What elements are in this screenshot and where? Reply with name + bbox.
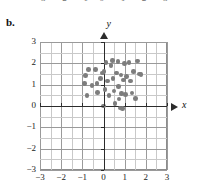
clipped-tick-label: 3	[163, 0, 168, 3]
data-point	[85, 93, 90, 98]
y-tick-label: −3	[22, 164, 36, 174]
data-point	[90, 83, 95, 88]
data-point	[133, 96, 138, 101]
data-point	[120, 106, 125, 111]
data-point	[128, 79, 133, 84]
y-axis-label: y	[107, 18, 111, 29]
x-tick-mark	[40, 103, 41, 106]
x-tick-mark	[82, 103, 83, 106]
data-point	[105, 79, 110, 84]
y-tick-mark	[101, 170, 104, 171]
y-tick-mark	[101, 127, 104, 128]
panel-label: b.	[6, 16, 15, 28]
y-tick-mark	[101, 106, 104, 107]
data-point	[109, 63, 114, 68]
data-point	[123, 92, 128, 97]
data-point	[116, 84, 121, 89]
data-point	[131, 69, 136, 74]
y-axis-arrow	[100, 32, 108, 39]
data-point	[104, 60, 109, 65]
clipped-tick-label: −2	[57, 0, 67, 3]
y-tick-label: 1	[22, 79, 36, 89]
x-axis-arrow	[171, 103, 178, 111]
data-point	[110, 58, 115, 63]
x-tick-label: −2	[54, 172, 68, 182]
x-tick-mark	[167, 103, 168, 106]
x-tick-label: 1	[118, 172, 132, 182]
clipped-tick-row: −3−2−10123	[0, 0, 199, 7]
clipped-tick-label: −3	[36, 0, 46, 3]
scatter-plot	[40, 42, 167, 170]
y-tick-mark	[101, 85, 104, 86]
data-point	[95, 90, 100, 95]
x-tick-label: 0	[97, 172, 111, 182]
clipped-tick-label: 0	[100, 0, 105, 3]
y-tick-mark	[101, 149, 104, 150]
data-point	[116, 59, 121, 64]
x-tick-label: −1	[75, 172, 89, 182]
x-tick-label: 3	[160, 172, 174, 182]
y-tick-label: 0	[22, 100, 36, 110]
data-point	[127, 60, 132, 65]
x-tick-mark	[125, 103, 126, 106]
clipped-tick-label: 1	[121, 0, 126, 3]
gridline-vertical	[167, 42, 168, 170]
x-axis-label: x	[182, 99, 186, 110]
y-tick-label: 2	[22, 57, 36, 67]
data-point	[86, 67, 91, 72]
gridline-horizontal	[40, 170, 167, 171]
y-tick-label: −1	[22, 121, 36, 131]
y-tick-label: 3	[22, 36, 36, 46]
y-tick-mark	[101, 42, 104, 43]
y-tick-mark	[101, 63, 104, 64]
x-tick-mark	[61, 103, 62, 106]
x-tick-mark	[104, 103, 105, 106]
data-point	[93, 67, 98, 72]
data-point	[102, 69, 107, 74]
x-tick-mark	[146, 103, 147, 106]
data-point	[111, 76, 116, 81]
data-point	[83, 73, 88, 78]
clipped-tick-label: −1	[78, 0, 88, 3]
data-point	[82, 81, 87, 86]
y-tick-label: −2	[22, 143, 36, 153]
x-tick-label: 2	[139, 172, 153, 182]
data-point	[98, 76, 103, 81]
clipped-tick-label: 2	[142, 0, 147, 3]
